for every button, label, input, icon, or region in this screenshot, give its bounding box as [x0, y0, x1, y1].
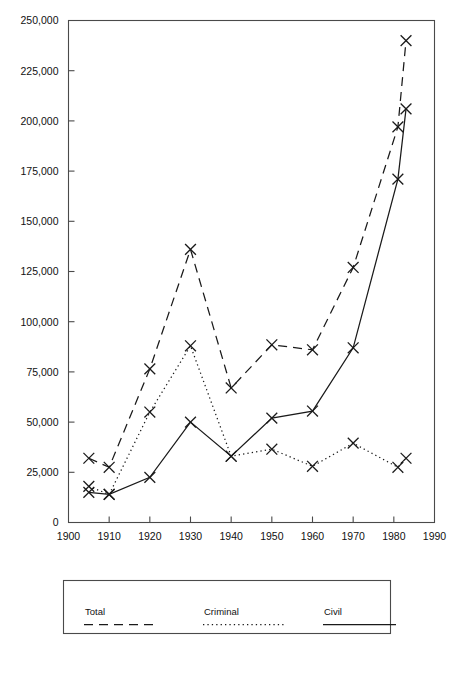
x-axis-tick-label: 1920 [138, 530, 162, 542]
legend-entry-label: Civil [324, 606, 342, 617]
y-axis-tick-label: 50,000 [26, 416, 58, 428]
x-axis-tick-label: 1950 [260, 530, 284, 542]
x-axis-tick-label: 1970 [341, 530, 365, 542]
y-axis-tick-label: 100,000 [21, 316, 59, 328]
x-axis-tick-label: 1990 [423, 530, 447, 542]
x-axis-tick-label: 1940 [219, 530, 243, 542]
y-axis-tick-label: 200,000 [21, 115, 59, 127]
x-axis-tick-label: 1930 [179, 530, 203, 542]
x-axis-tick-label: 1960 [301, 530, 325, 542]
y-axis-tick-label: 250,000 [21, 14, 59, 26]
x-axis-tick-label: 1910 [97, 530, 121, 542]
y-axis-tick-label: 225,000 [21, 65, 59, 77]
chart-figure: 025,00050,00075,000100,000125,000150,000… [0, 0, 449, 677]
x-axis-tick-label: 1900 [57, 530, 81, 542]
figure-background [0, 0, 449, 677]
legend-entry-label: Total [85, 606, 105, 617]
y-axis-tick-label: 25,000 [26, 466, 58, 478]
y-axis-tick-label: 75,000 [26, 366, 58, 378]
legend-entry-label: Criminal [204, 606, 239, 617]
x-axis-tick-label: 1980 [382, 530, 406, 542]
y-axis-tick-label: 125,000 [21, 265, 59, 277]
y-axis-tick-label: 150,000 [21, 215, 59, 227]
y-axis-tick-label: 0 [53, 516, 59, 528]
y-axis-tick-label: 175,000 [21, 165, 59, 177]
